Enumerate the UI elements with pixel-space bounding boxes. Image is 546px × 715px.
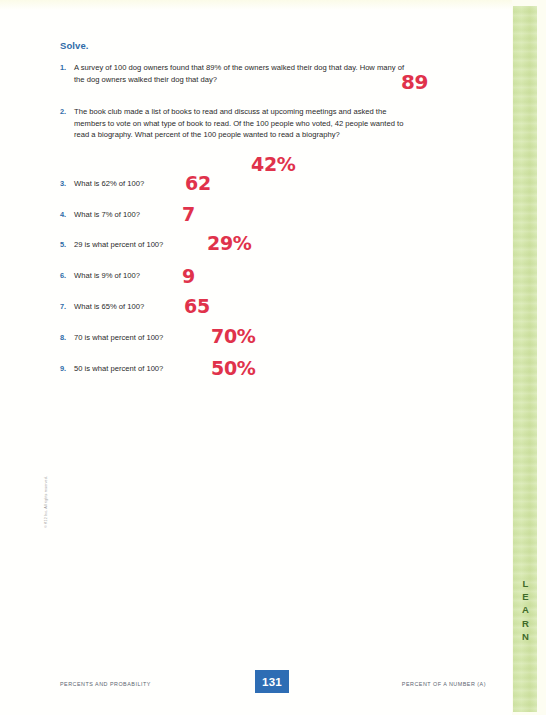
answer-value: 42%: [251, 153, 296, 175]
question-item: 3. What is 62% of 100?: [60, 178, 190, 190]
copyright-notice: © K12 Inc. All rights reserved.: [44, 476, 48, 528]
question-text: What is 65% of 100?: [74, 301, 144, 313]
question-text: The book club made a list of books to re…: [74, 106, 412, 141]
question-number: 3.: [60, 178, 74, 188]
worksheet-page: LEARN © K12 Inc. All rights reserved. So…: [0, 0, 546, 715]
question-item: 9. 50 is what percent of 100?: [60, 363, 225, 375]
answer-value: 9: [182, 265, 195, 287]
question-item: 1. A survey of 100 dog owners found that…: [60, 62, 410, 85]
answer-value: 65: [184, 295, 210, 317]
answer-value: 62: [185, 172, 211, 194]
answer-value: 7: [182, 203, 195, 225]
question-number: 9.: [60, 363, 74, 373]
question-text: 50 is what percent of 100?: [74, 363, 163, 375]
side-tab-label: LEARN: [513, 578, 537, 644]
footer-lesson-label: PERCENT OF A NUMBER (A): [402, 681, 486, 687]
question-text: What is 62% of 100?: [74, 178, 144, 190]
question-number: 6.: [60, 270, 74, 280]
question-number: 8.: [60, 332, 74, 342]
question-item: 2. The book club made a list of books to…: [60, 106, 412, 141]
paper-top-wash: [0, 0, 546, 10]
question-item: 7. What is 65% of 100?: [60, 301, 190, 313]
answer-value: 29%: [207, 232, 252, 254]
question-item: 4. What is 7% of 100?: [60, 209, 190, 221]
answer-value: 50%: [211, 357, 256, 379]
footer-unit-label: PERCENTS AND PROBABILITY: [60, 681, 151, 687]
page-number-badge: 131: [255, 670, 289, 693]
question-number: 1.: [60, 62, 74, 72]
question-number: 4.: [60, 209, 74, 219]
question-item: 8. 70 is what percent of 100?: [60, 332, 225, 344]
question-item: 5. 29 is what percent of 100?: [60, 239, 225, 251]
question-text: What is 7% of 100?: [74, 209, 140, 221]
question-number: 7.: [60, 301, 74, 311]
question-text: 29 is what percent of 100?: [74, 239, 163, 251]
question-text: 70 is what percent of 100?: [74, 332, 163, 344]
answer-value: 70%: [211, 325, 256, 347]
question-number: 2.: [60, 106, 74, 116]
page-title: Solve.: [60, 40, 89, 51]
question-item: 6. What is 9% of 100?: [60, 270, 190, 282]
question-text: What is 9% of 100?: [74, 270, 140, 282]
question-number: 5.: [60, 239, 74, 249]
question-text: A survey of 100 dog owners found that 89…: [74, 62, 410, 85]
answer-value: 89: [401, 70, 428, 94]
